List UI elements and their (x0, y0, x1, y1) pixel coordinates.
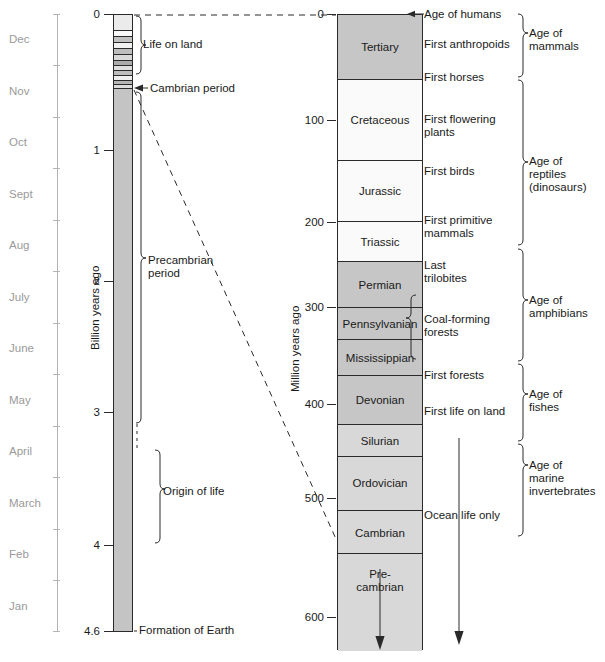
month-label-aug: Aug (9, 239, 29, 252)
annotation-origin-of-life: Origin of life (163, 485, 224, 498)
period-block-triassic: Triassic (338, 222, 422, 262)
month-label-sept: Sept (9, 188, 33, 201)
month-label-may: May (9, 394, 31, 407)
earth-history-bar (113, 14, 133, 632)
event-first-anthropoids: First anthropoids (424, 38, 510, 51)
million-tick-300: 300 (294, 301, 324, 313)
billion-tick-1: 1 (78, 144, 100, 156)
bracket-age-of-marine-invertebrates (518, 444, 528, 536)
million-tick-200: 200 (294, 216, 324, 228)
month-label-june: June (9, 342, 34, 355)
event-age-of-humans: Age of humans (424, 8, 501, 21)
million-tick-600: 600 (294, 611, 324, 623)
period-label-ordovician: Ordovician (338, 477, 422, 490)
month-label-march: March (9, 497, 41, 510)
period-block-precambrian: Pre- cambrian (338, 554, 422, 651)
month-label-nov: Nov (9, 85, 29, 98)
billion-tick-3: 3 (78, 406, 100, 418)
period-block-jurassic: Jurassic (338, 161, 422, 222)
period-block-silurian: Silurian (338, 425, 422, 457)
bracket-age-of-reptiles (518, 80, 528, 245)
period-block-ordovician: Ordovician (338, 457, 422, 511)
ocean-life-down-arrowhead (454, 631, 463, 645)
annotation-life-on-land: Life on land (143, 38, 202, 51)
period-block-cretaceous: Cretaceous (338, 80, 422, 161)
period-block-pennsylvanian: Pennsylvanian (338, 308, 422, 340)
annotation-cambrian-period: Cambrian period (150, 82, 235, 95)
period-block-permian: Permian (338, 262, 422, 308)
dashed-correlation-cambrian (134, 90, 336, 539)
bracket-age-of-mammals (518, 14, 528, 77)
month-label-oct: Oct (9, 136, 27, 149)
period-label-devonian: Devonian (338, 394, 422, 407)
month-label-dec: Dec (9, 33, 29, 46)
billion-tick-0: 0 (78, 8, 100, 20)
billion-tick-4: 4 (78, 539, 100, 551)
bracket-age-of-amphibians (518, 249, 528, 361)
period-block-devonian: Devonian (338, 376, 422, 425)
period-block-cambrian: Cambrian (338, 511, 422, 554)
age-of-reptiles: Age of reptiles (dinosaurs) (529, 155, 587, 194)
period-label-jurassic: Jurassic (338, 185, 422, 198)
geologic-period-column: Tertiary Cretaceous Jurassic Triassic Pe… (337, 14, 423, 650)
geologic-time-scale-figure: Dec Nov Oct Sept Aug July June May April… (0, 0, 605, 662)
age-of-mammals: Age of mammals (529, 27, 579, 53)
event-first-flowering-plants: First flowering plants (424, 113, 496, 139)
age-of-amphibians: Age of amphibians (529, 294, 588, 320)
period-label-mississippian: Mississippian (338, 352, 422, 365)
million-tick-400: 400 (294, 398, 324, 410)
million-tick-100: 100 (294, 114, 324, 126)
period-label-cambrian: Cambrian (338, 527, 422, 540)
event-first-birds: First birds (424, 165, 474, 178)
million-tick-0: 0 (294, 8, 324, 20)
billion-tick-2: 2 (78, 275, 100, 287)
month-label-feb: Feb (9, 548, 29, 561)
period-label-silurian: Silurian (338, 435, 422, 448)
annotation-precambrian-period: Precambrian period (148, 254, 213, 280)
event-coal-forming-forests: Coal-forming forests (424, 313, 490, 339)
bracket-precambrian-period (136, 92, 146, 423)
month-label-jan: Jan (9, 600, 28, 613)
event-ocean-life-only: Ocean life only (424, 509, 500, 522)
phanerozoic-band-stripes (114, 15, 132, 89)
age-of-marine-invertebrates: Age of marine invertebrates (529, 459, 595, 498)
event-first-forests: First forests (424, 369, 484, 382)
age-of-fishes: Age of fishes (529, 388, 562, 414)
annotation-formation-of-earth: Formation of Earth (139, 624, 234, 637)
event-first-primitive-mammals: First primitive mammals (424, 214, 492, 240)
billion-tick-46: 4.6 (62, 625, 100, 637)
period-label-cretaceous: Cretaceous (338, 114, 422, 127)
million-tick-500: 500 (294, 492, 324, 504)
period-label-triassic: Triassic (338, 236, 422, 249)
event-last-trilobites: Last trilobites (424, 259, 467, 285)
period-block-mississippian: Mississippian (338, 340, 422, 376)
million-years-axis-label: Million years ago (289, 306, 301, 392)
period-label-precambrian: Pre- cambrian (338, 568, 422, 594)
event-first-horses: First horses (424, 71, 484, 84)
month-label-april: April (9, 445, 32, 458)
period-label-pennsylvanian: Pennsylvanian (338, 318, 422, 331)
arrowhead-cambrian-period (134, 85, 143, 92)
event-first-life-on-land: First life on land (424, 405, 505, 418)
period-label-tertiary: Tertiary (338, 41, 422, 54)
period-block-tertiary: Tertiary (338, 15, 422, 80)
month-label-july: July (9, 291, 29, 304)
bracket-age-of-fishes (518, 364, 528, 441)
period-label-permian: Permian (338, 279, 422, 292)
